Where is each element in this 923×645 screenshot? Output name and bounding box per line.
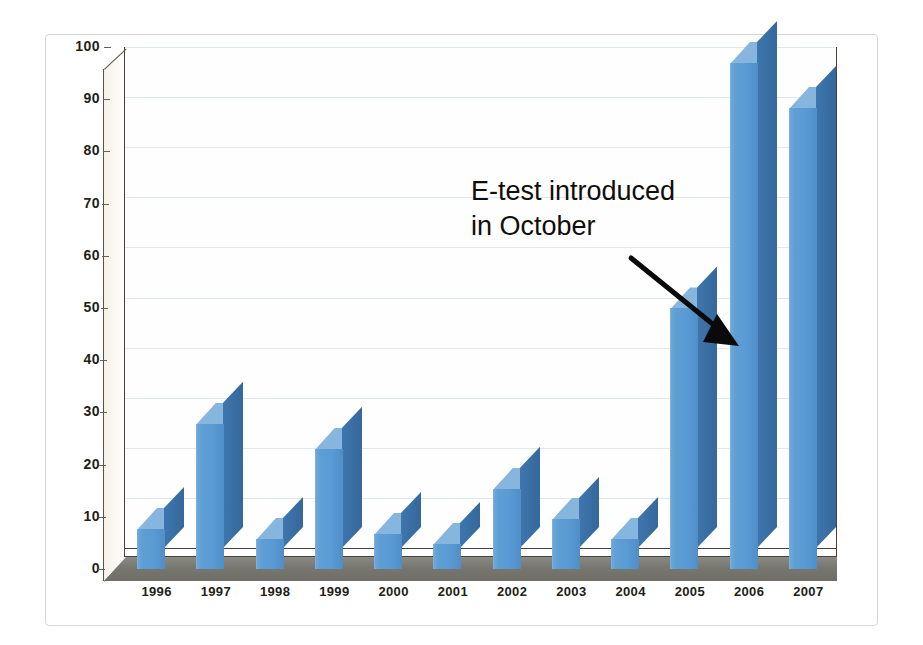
bar-2004[interactable]	[611, 518, 638, 569]
chart-plot-area: 0102030405060708090100 19961997199819992…	[46, 35, 879, 627]
bar-1997[interactable]	[196, 403, 223, 569]
x-tick-label-1999: 1999	[305, 584, 364, 599]
bar-1999[interactable]	[315, 428, 342, 569]
bar-front-face	[789, 108, 817, 569]
bar-front-face	[256, 539, 284, 569]
x-tick-label-2004: 2004	[601, 584, 660, 599]
bar-front-face	[196, 424, 224, 569]
bar-front-face	[433, 544, 461, 569]
bar-front-face	[611, 539, 639, 569]
x-tick-label-2007: 2007	[779, 584, 838, 599]
x-tick-label-2002: 2002	[483, 584, 542, 599]
x-tick-label-2005: 2005	[660, 584, 719, 599]
bar-2003[interactable]	[552, 498, 579, 569]
bar-side-face	[638, 497, 658, 548]
x-axis: 1996199719981999200020012002200320042005…	[124, 584, 857, 610]
bar-2000[interactable]	[374, 513, 401, 569]
bar-side-face	[816, 66, 836, 548]
bar-1998[interactable]	[256, 518, 283, 569]
x-tick-label-1996: 1996	[127, 584, 186, 599]
bar-2007[interactable]	[789, 87, 816, 569]
x-tick-label-1997: 1997	[186, 584, 245, 599]
chart-card: 0102030405060708090100 19961997199819992…	[45, 34, 878, 626]
annotation-line-2: in October	[471, 209, 761, 244]
bar-side-face	[223, 382, 243, 548]
bar-1996[interactable]	[137, 508, 164, 569]
annotation-arrow-icon	[621, 250, 761, 360]
bar-side-face	[342, 407, 362, 548]
bar-front-face	[552, 519, 580, 569]
bar-side-face	[460, 502, 480, 548]
annotation-line-1: E-test introduced	[471, 174, 761, 209]
e-test-annotation: E-test introduced in October	[471, 174, 761, 243]
bar-front-face	[137, 529, 165, 569]
bar-front-face	[493, 489, 521, 569]
bar-2001[interactable]	[433, 523, 460, 569]
bar-side-face	[164, 487, 184, 548]
x-tick-label-2006: 2006	[720, 584, 779, 599]
x-tick-label-1998: 1998	[246, 584, 305, 599]
bar-front-face	[374, 534, 402, 569]
bar-2002[interactable]	[493, 468, 520, 569]
bar-side-face	[520, 447, 540, 548]
bar-side-face	[283, 497, 303, 548]
x-tick-label-2000: 2000	[364, 584, 423, 599]
x-tick-label-2001: 2001	[423, 584, 482, 599]
bar-front-face	[315, 449, 343, 569]
x-tick-label-2003: 2003	[542, 584, 601, 599]
bar-side-face	[579, 477, 599, 548]
bar-side-face	[401, 492, 421, 548]
